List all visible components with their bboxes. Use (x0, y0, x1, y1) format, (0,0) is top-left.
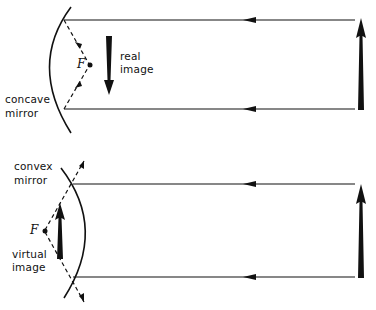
ray-arrowhead-bottom (243, 106, 256, 112)
convex-mirror-curve (61, 168, 85, 298)
real-image-label-line1: real (120, 50, 141, 62)
focal-label-top: F (77, 57, 85, 71)
object-arrow-top (356, 18, 366, 110)
concave-mirror-panel (50, 7, 367, 133)
ray-arrowhead-top (243, 17, 256, 23)
concave-mirror-label-line1: concave (5, 93, 50, 105)
reflected-arrowhead-bottom (75, 81, 82, 88)
focal-point-dot (88, 63, 93, 68)
reflected-arrowhead-top (75, 42, 82, 49)
convex-mirror-label-line2: mirror (14, 174, 47, 186)
virtual-image-label-line1: virtual (12, 248, 47, 260)
real-image-label-line2: image (120, 63, 154, 75)
real-image-arrow (104, 36, 114, 95)
reflected-ray-bottom (45, 232, 84, 302)
virtual-image-arrow (55, 203, 65, 259)
concave-mirror-curve (50, 7, 72, 133)
object-arrow-bottom (356, 184, 366, 278)
convex-mirror-panel (43, 161, 367, 302)
convex-mirror-label-line1: convex (14, 160, 53, 172)
ray-arrowhead-top (243, 181, 256, 187)
focal-label-bottom: F (30, 223, 38, 237)
virtual-image-label-line2: image (12, 261, 46, 273)
ray-arrowhead-bottom (243, 274, 256, 280)
optics-diagram (0, 0, 376, 310)
concave-mirror-label-line2: mirror (5, 107, 38, 119)
focal-point-dot (43, 229, 48, 234)
